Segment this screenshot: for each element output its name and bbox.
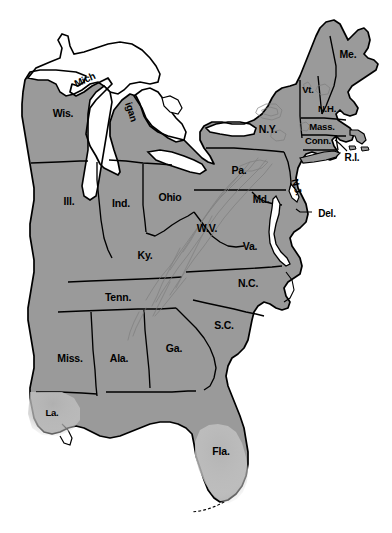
map-svg xyxy=(0,0,392,533)
florida-fade-shade xyxy=(190,420,256,510)
nantucket xyxy=(361,147,369,151)
map-container: Wis.MichiganIll.Ind.OhioKy.Tenn.Miss.Ala… xyxy=(0,0,392,533)
marthas-vineyard xyxy=(349,146,356,150)
florida-keys xyxy=(192,502,224,512)
